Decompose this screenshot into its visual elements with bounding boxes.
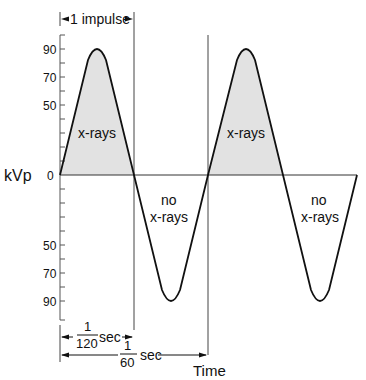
y-tick-lower-90: 90 bbox=[43, 295, 57, 309]
full-period-unit: sec bbox=[140, 347, 162, 363]
x-axis-label: Time bbox=[193, 362, 226, 379]
full-period-numerator: 1 bbox=[124, 338, 131, 353]
impulse-label: 1 impulse bbox=[70, 11, 130, 27]
x-rays-region-2 bbox=[208, 49, 283, 175]
y-tick-lower-50: 50 bbox=[43, 239, 57, 253]
y-tick-upper-90: 90 bbox=[43, 43, 57, 57]
full-period-denominator: 60 bbox=[120, 355, 134, 370]
region-xrays-1-label: x-rays bbox=[78, 125, 116, 141]
y-axis-label: kVp bbox=[4, 167, 32, 184]
y-tick-zero: 0 bbox=[47, 169, 54, 183]
half-period-denominator: 120 bbox=[76, 336, 98, 351]
region-noxrays-2-line2: x-rays bbox=[301, 209, 339, 225]
y-tick-upper-70: 70 bbox=[43, 71, 57, 85]
y-tick-upper-50: 50 bbox=[43, 99, 57, 113]
region-noxrays-1-line2: x-rays bbox=[150, 209, 188, 225]
region-noxrays-2-line1: no bbox=[311, 192, 327, 208]
y-tick-lower-70: 70 bbox=[43, 267, 57, 281]
region-noxrays-1-line1: no bbox=[161, 192, 177, 208]
x-rays-region-1 bbox=[60, 49, 134, 175]
half-period-unit: sec bbox=[99, 329, 121, 345]
waveform-diagram: 1 impulse kVp 0 90 70 50 50 70 90 x-rays… bbox=[0, 0, 366, 380]
y-axis-ticks bbox=[60, 35, 65, 320]
half-period-numerator: 1 bbox=[84, 319, 91, 334]
region-xrays-2-label: x-rays bbox=[227, 125, 265, 141]
